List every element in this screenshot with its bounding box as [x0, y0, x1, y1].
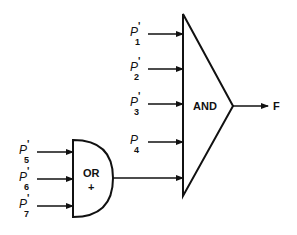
- and-input-2: P ' 2: [130, 56, 183, 82]
- svg-text:1: 1: [135, 37, 140, 47]
- svg-text:6: 6: [24, 182, 29, 192]
- and-input-1: P ' 1: [130, 21, 183, 47]
- svg-text:': ': [138, 56, 140, 67]
- svg-text:': ': [27, 139, 29, 150]
- and-input-4: P 4: [130, 133, 183, 155]
- logic-diagram: AND P ' 1 P ' 2 P ' 3 P 4 F OR + P ' 5: [0, 0, 297, 235]
- svg-text:3: 3: [134, 107, 139, 117]
- and-gate-label: AND: [193, 100, 217, 112]
- or-input-6: P ' 6: [19, 166, 73, 192]
- svg-text:': ': [138, 91, 140, 102]
- or-input-5: P ' 5: [19, 139, 73, 165]
- svg-text:7: 7: [24, 209, 29, 219]
- and-output: F: [233, 100, 280, 112]
- svg-text:2: 2: [134, 72, 139, 82]
- svg-text:': ': [27, 193, 29, 204]
- svg-text:': ': [138, 21, 140, 32]
- or-gate-symbol: +: [88, 181, 94, 193]
- or-input-7: P ' 7: [19, 193, 73, 219]
- svg-text:F: F: [273, 100, 280, 112]
- or-gate-label: OR: [83, 167, 100, 179]
- svg-text:4: 4: [134, 145, 139, 155]
- svg-text:5: 5: [24, 155, 29, 165]
- svg-text:': ': [27, 166, 29, 177]
- and-input-3: P ' 3: [130, 91, 183, 117]
